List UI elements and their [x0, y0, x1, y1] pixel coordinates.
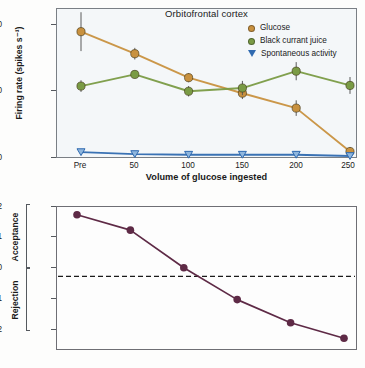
- series-line-glucose: [81, 32, 350, 152]
- firing-rate-series-layer: [0, 0, 365, 186]
- data-point-marker: [127, 226, 135, 234]
- data-point-marker: [340, 334, 348, 342]
- data-point-marker: [77, 28, 85, 36]
- panel-acceptance-rejection: +2 +1 0 -1 -2 Acceptance Rejection: [0, 186, 365, 368]
- data-point-marker: [185, 74, 193, 82]
- series-line-black-currant-juice: [81, 71, 350, 91]
- acceptance-series-layer: [0, 186, 365, 368]
- figure-container: Orbitofrontal cortex Firing rate (spikes…: [0, 0, 365, 368]
- data-point-marker: [185, 87, 193, 95]
- data-point-marker: [131, 70, 139, 78]
- data-point-marker: [287, 319, 295, 327]
- series-line-spontaneous-activity: [81, 152, 350, 156]
- data-point-marker: [77, 82, 85, 90]
- data-point-marker: [73, 211, 81, 219]
- data-point-marker: [346, 81, 354, 89]
- panel-orbitofrontal-cortex: Orbitofrontal cortex Firing rate (spikes…: [0, 0, 365, 186]
- data-point-marker: [180, 264, 188, 272]
- data-point-marker: [292, 104, 300, 112]
- data-point-marker: [292, 67, 300, 75]
- data-point-marker: [233, 296, 241, 304]
- data-point-marker: [238, 84, 246, 92]
- data-point-marker: [131, 50, 139, 58]
